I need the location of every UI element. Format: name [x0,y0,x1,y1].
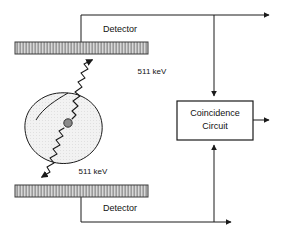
detector-top-crystal-bar[interactable] [15,42,148,54]
coincidence-circuit-box[interactable]: Coincidence Circuit [177,101,269,140]
source-dot-icon[interactable] [64,119,72,127]
diagram-canvas: Detector Detector 511 keV 511 keV [0,0,285,239]
pet-coincidence-diagram: Detector Detector 511 keV 511 keV [0,0,285,239]
coincidence-circuit-label-line2: Circuit [202,121,228,131]
detector-bottom-crystal-bar[interactable] [15,185,148,197]
detector-top-label: Detector [103,24,137,34]
coincidence-circuit-label-line1: Coincidence [190,108,240,118]
annihilation-site[interactable] [64,119,72,127]
gamma-up-energy-label: 511 keV [138,67,167,76]
detector-bottom-label: Detector [103,203,137,213]
gamma-down-energy-label: 511 keV [79,167,108,176]
